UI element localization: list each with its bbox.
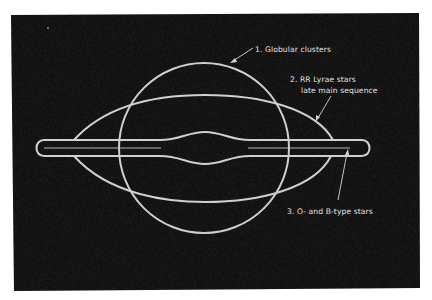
- label-globular-clusters: 1. Globular clusters: [255, 45, 331, 54]
- label-rr-lyrae-line2: late main sequence: [301, 86, 378, 95]
- label-ob-stars: 3. O- and B-type stars: [287, 207, 373, 216]
- label-rr-lyrae-line1: 2. RR Lyrae stars: [290, 75, 356, 84]
- speck: [47, 27, 49, 29]
- galaxy-population-diagram: 1. Globular clusters 2. RR Lyrae stars l…: [0, 0, 432, 300]
- background-grain: [11, 13, 420, 291]
- diagram-canvas: 1. Globular clusters 2. RR Lyrae stars l…: [0, 0, 432, 300]
